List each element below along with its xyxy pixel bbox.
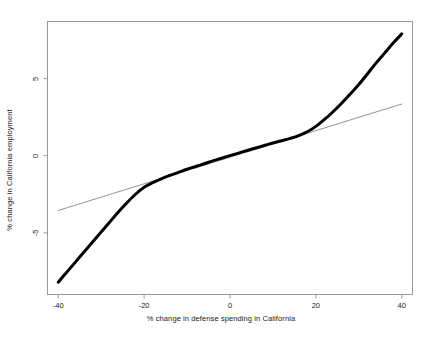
y-tick-label: 0 <box>30 150 42 162</box>
chart-plot-area <box>0 0 442 340</box>
x-tick-label: -40 <box>53 301 64 310</box>
x-tick-label: 0 <box>228 301 232 310</box>
x-tick-label: 40 <box>398 301 406 310</box>
y-axis-title-wrapper: % change in California employment <box>0 0 20 340</box>
y-axis-ticks <box>44 79 48 233</box>
x-axis-title: % change in defense spending in Californ… <box>0 314 442 323</box>
x-axis-ticks <box>58 295 402 299</box>
x-tick-label: 20 <box>312 301 320 310</box>
y-axis-title: % change in California employment <box>0 0 20 340</box>
plot-frame <box>48 22 413 295</box>
y-tick-label: 5 <box>30 73 42 85</box>
y-tick-label: -5 <box>30 227 42 239</box>
chart-figure: -40-2002040 -505 % change in defense spe… <box>0 0 442 340</box>
x-tick-label: -20 <box>139 301 150 310</box>
